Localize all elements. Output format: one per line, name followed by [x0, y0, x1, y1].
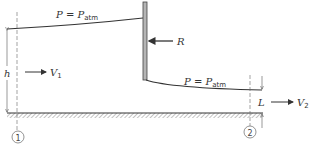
sluice-gate — [143, 2, 147, 80]
channel-floor — [7, 113, 263, 118]
upstream-velocity-label: V1 — [50, 67, 62, 80]
station-2-label: 2 — [247, 129, 252, 138]
gate-force-label: R — [176, 36, 185, 47]
downstream-velocity-label: V2 — [297, 97, 309, 110]
station-1-label: 1 — [15, 134, 20, 143]
upstream-depth-label: h — [4, 68, 10, 79]
sluice-gate-diagram: h 1 V1 P = Patm R P = Patm 2 L V2 — [0, 0, 314, 147]
downstream-depth-label: L — [257, 97, 265, 108]
upstream-pressure-label: P = Patm — [55, 9, 98, 22]
